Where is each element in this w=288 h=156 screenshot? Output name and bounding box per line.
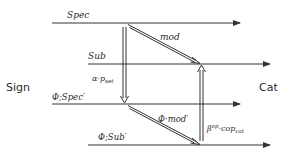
label-spec: Spec: [67, 10, 89, 20]
label-phi-spec-prime: Φ;Spec′: [52, 92, 85, 102]
double-arrow-alpha-pset: [121, 27, 129, 103]
diagram-canvas: Spec Sub Φ;Spec′ Φ;Sub′ mod Φ·mod′ α·pse…: [0, 0, 288, 156]
label-phi-mod-prime: Φ·mod′: [158, 114, 188, 124]
label-sub: Sub: [88, 51, 106, 61]
label-mod: mod: [160, 32, 180, 42]
double-arrow-beta-copcat: [198, 65, 206, 141]
label-beta-copcat: βop·copcat: [206, 123, 245, 134]
label-phi-sub-prime: Φ;Sub′: [98, 132, 127, 142]
label-sign: Sign: [6, 81, 30, 94]
double-arrow-phi-mod-prime: [128, 106, 200, 145]
double-arrow-mod: [128, 25, 200, 64]
label-alpha-pset: α·pset: [92, 74, 114, 84]
label-cat: Cat: [259, 81, 278, 94]
